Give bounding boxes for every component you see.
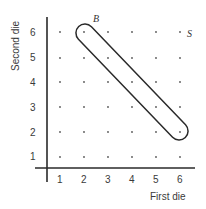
y-tick: 1 — [30, 151, 36, 162]
y-tick: 6 — [30, 27, 36, 38]
y-tick: 2 — [30, 127, 36, 138]
x-axis-label: First die — [150, 191, 186, 202]
x-tick: 5 — [153, 174, 159, 185]
y-tick: 3 — [30, 102, 36, 113]
event-b-label: B — [93, 13, 99, 24]
x-tick-labels: 1 2 3 4 5 6 — [57, 174, 183, 185]
x-tick: 4 — [129, 174, 135, 185]
y-tick: 5 — [30, 52, 36, 63]
x-tick: 2 — [81, 174, 87, 185]
y-tick: 4 — [30, 77, 36, 88]
dice-sample-space-diagram: 6 5 4 3 2 1 1 2 3 4 5 6 Second die First… — [0, 0, 206, 209]
y-tick-labels: 6 5 4 3 2 1 — [30, 27, 36, 162]
y-axis-label: Second die — [10, 21, 21, 71]
x-tick: 6 — [177, 174, 183, 185]
sample-space-label: S — [187, 28, 192, 39]
sample-points — [59, 31, 181, 158]
x-tick: 1 — [57, 174, 63, 185]
x-tick: 3 — [105, 174, 111, 185]
